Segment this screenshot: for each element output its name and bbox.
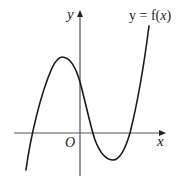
y-axis-arrow-icon	[77, 10, 83, 17]
curve-label-prefix: y = f(	[129, 8, 160, 23]
y-axis-label: y	[67, 7, 74, 22]
x-axis	[14, 130, 166, 136]
cubic-graph	[0, 0, 181, 187]
curve-label-suffix: )	[166, 8, 171, 23]
x-axis-label: x	[157, 134, 164, 149]
curve-label: y = f(x)	[129, 9, 171, 23]
curve-f	[26, 26, 149, 170]
origin-label: O	[65, 136, 75, 150]
